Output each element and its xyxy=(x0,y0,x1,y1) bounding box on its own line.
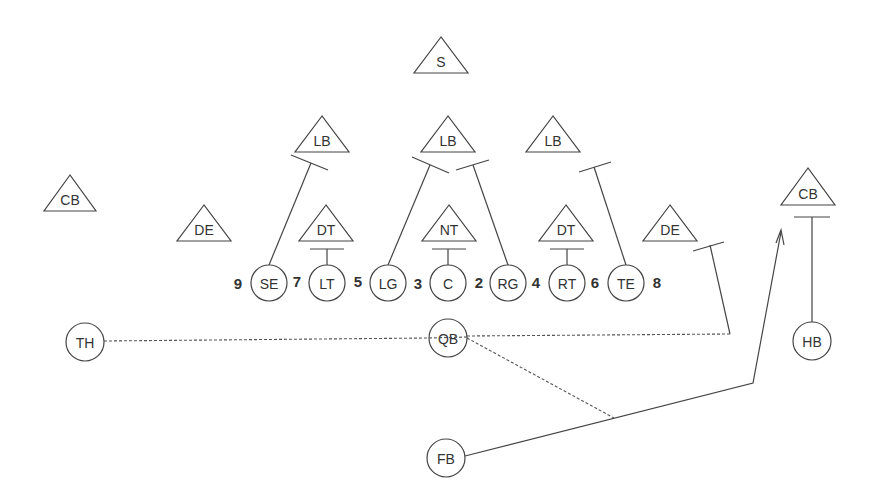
defender-dt-left: DT xyxy=(299,205,353,241)
defender-label: LB xyxy=(313,133,330,149)
offense-lt: LT xyxy=(309,265,345,301)
offense-lg: LG xyxy=(370,265,406,301)
block-bar xyxy=(412,157,449,173)
offense-label: FB xyxy=(437,451,455,467)
offense-players: SELTLGCRGRTTETHQBHBFB xyxy=(66,265,831,477)
offense-label: TH xyxy=(76,335,95,351)
defender-de-left: DE xyxy=(177,205,231,241)
defender-label: DT xyxy=(557,222,576,238)
block-line xyxy=(388,165,430,265)
defender-lb-center: LB xyxy=(421,116,475,152)
offense-hb: HB xyxy=(793,322,831,360)
qb-to-fb-route-dashed xyxy=(467,338,614,418)
pass-te-block xyxy=(693,242,730,334)
gap-number-8: 8 xyxy=(653,274,661,291)
defense-players: SLBLBLBCBCBDEDTNTDTDE xyxy=(44,37,835,241)
offense-th: TH xyxy=(66,323,104,361)
block-c xyxy=(432,249,466,265)
defender-dt-right: DT xyxy=(539,205,593,241)
defender-lb-right: LB xyxy=(526,116,580,152)
th-to-qb-to-flat-dashed xyxy=(104,334,730,341)
offense-se: SE xyxy=(251,265,287,301)
block-bar xyxy=(456,160,489,170)
defender-label: LB xyxy=(544,133,561,149)
defender-label: CB xyxy=(60,192,79,208)
defender-cb-right: CB xyxy=(781,168,835,205)
offense-label: RT xyxy=(558,276,577,292)
offense-label: C xyxy=(443,276,453,292)
fb-route xyxy=(465,230,784,456)
offense-label: RG xyxy=(498,276,519,292)
block-te xyxy=(579,162,626,265)
defender-label: LB xyxy=(439,133,456,149)
blocking-and-routes xyxy=(104,155,830,456)
defender-label: DT xyxy=(317,222,336,238)
offense-fb: FB xyxy=(427,439,465,477)
defender-label: S xyxy=(436,54,445,70)
block-hb xyxy=(794,217,830,322)
block-line xyxy=(473,165,508,265)
defender-lb-left: LB xyxy=(295,116,349,152)
gap-number-7: 7 xyxy=(293,273,301,290)
offense-te: TE xyxy=(608,265,644,301)
defender-label: CB xyxy=(798,186,817,202)
defender-s: S xyxy=(414,37,468,73)
gap-number-6: 6 xyxy=(591,274,599,291)
block-rt xyxy=(550,249,584,265)
gap-number-2: 2 xyxy=(475,274,483,291)
offense-label: LG xyxy=(379,276,398,292)
football-play-diagram: SLBLBLBCBCBDEDTNTDTDE SELTLGCRGRTTETHQBH… xyxy=(0,0,878,503)
offense-label: SE xyxy=(260,276,279,292)
block-line xyxy=(594,167,626,265)
defender-nt: NT xyxy=(422,205,476,241)
offense-c: C xyxy=(430,265,466,301)
block-line xyxy=(269,163,311,265)
gap-number-5: 5 xyxy=(354,273,362,290)
block-bar xyxy=(693,242,724,251)
defender-label: DE xyxy=(660,222,679,238)
route-line xyxy=(710,245,730,334)
defender-label: DE xyxy=(194,222,213,238)
offense-label: TE xyxy=(617,276,635,292)
offense-label: QB xyxy=(438,331,458,347)
gap-number-3: 3 xyxy=(414,275,422,292)
defender-label: NT xyxy=(440,222,459,238)
offense-rg: RG xyxy=(490,265,526,301)
defender-de-right: DE xyxy=(643,205,697,241)
offense-label: HB xyxy=(802,334,821,350)
gap-number-9: 9 xyxy=(234,275,242,292)
gap-number-4: 4 xyxy=(532,274,541,291)
offense-label: LT xyxy=(319,276,335,292)
defender-cb-left: CB xyxy=(44,175,96,211)
offense-rt: RT xyxy=(549,265,585,301)
block-lt xyxy=(310,249,344,265)
